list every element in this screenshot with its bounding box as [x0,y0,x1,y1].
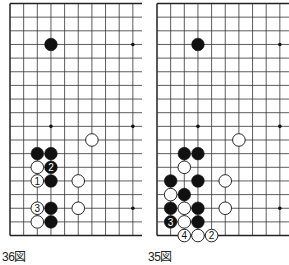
star-point-icon [278,125,282,129]
white-stone-icon [219,202,232,215]
go-board-right: 342 [0,0,289,250]
black-stone-icon [192,175,205,188]
star-point-icon [278,43,282,47]
black-stone-icon [178,147,191,160]
white-stone-icon [219,175,232,188]
go-diagram-35: 342 35図 [0,0,289,265]
black-stone-icon [192,216,205,229]
white-stone-icon [178,216,191,229]
black-stone-icon [164,175,177,188]
white-stone-icon [178,161,191,174]
grid-lines [157,4,289,236]
move-number-label: 3 [168,217,174,228]
black-stone-icon [192,202,205,215]
move-number-label: 2 [209,230,215,241]
black-stone-icon [164,202,177,215]
move-number-label: 4 [182,230,188,241]
white-stone-icon [178,202,191,215]
black-stone-icon [192,38,205,51]
black-stone-icon [178,188,191,201]
star-point-icon [278,206,282,210]
diagram-caption-35: 35図 [148,247,172,264]
black-stone-icon [192,147,205,160]
white-stone-icon [233,134,246,147]
star-point-icon [196,125,200,129]
white-stone-icon [192,229,205,242]
white-stone-icon [164,188,177,201]
